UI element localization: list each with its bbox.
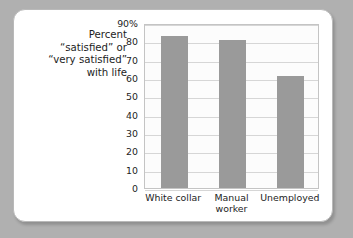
y-tick-label-10: 10 [126,166,138,175]
y-tick-label-90: 90% [117,19,138,28]
y-tick-label-60: 60 [126,74,138,83]
y-axis: 0102030405060708090% [106,24,141,189]
y-tick-label-20: 20 [126,148,138,157]
gridline-0 [145,190,318,191]
y-tick-label-70: 70 [126,56,138,65]
y-tick-label-40: 40 [126,111,138,120]
bar-chart: Percent “satisfied” or “very satisfied” … [14,10,334,223]
bar-unemployed [277,76,304,188]
plot-area [144,24,319,189]
x-tick-label-line: Unemployed [255,193,325,204]
bar-white-collar [161,36,188,188]
bars [145,25,318,188]
y-tick-label-80: 80 [126,38,138,47]
x-axis: White collarManualworkerUnemployed [144,193,319,223]
x-tick-label-line: worker [197,204,267,215]
figure-card: Percent “satisfied” or “very satisfied” … [13,9,333,222]
y-tick-label-50: 50 [126,93,138,102]
x-tick-label-unemployed: Unemployed [255,193,325,204]
y-tick-label-30: 30 [126,129,138,138]
bar-manual-worker [219,40,246,189]
y-tick-label-0: 0 [132,184,138,193]
